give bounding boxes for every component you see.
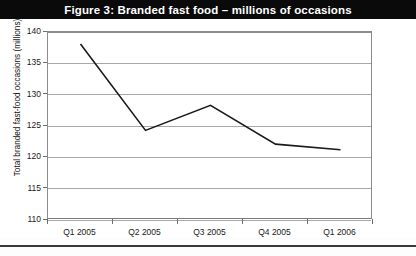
figure-container: Figure 3: Branded fast food – millions o… (0, 0, 416, 256)
y-axis-tick-label: 120 (27, 152, 41, 161)
y-axis-tick-label: 130 (27, 90, 41, 99)
y-axis-tick-label: 110 (27, 215, 41, 224)
x-axis-tick-mark (112, 219, 113, 224)
x-axis-tick-mark (177, 219, 178, 224)
series-line-path (81, 44, 341, 150)
x-axis-tick-mark (372, 219, 373, 224)
line-series-svg (48, 32, 373, 220)
y-axis-tick-labels: 140135130125120115110 (0, 31, 41, 219)
figure-title: Figure 3: Branded fast food – millions o… (64, 4, 352, 16)
footer-divider (0, 245, 416, 247)
y-axis-tick-label: 125 (27, 121, 41, 130)
x-axis-tick-mark (307, 219, 308, 224)
x-axis-tick-label: Q3 2005 (193, 227, 226, 237)
y-axis-tick-label: 135 (27, 58, 41, 67)
x-axis-tick-label: Q1 2006 (323, 227, 356, 237)
x-axis-tick-mark (47, 219, 48, 224)
x-axis-tick-mark (242, 219, 243, 224)
y-axis-tick-label: 115 (27, 184, 41, 193)
figure-header-bar: Figure 3: Branded fast food – millions o… (0, 0, 416, 19)
plot-frame (47, 31, 372, 219)
x-axis-tick-label: Q4 2005 (258, 227, 291, 237)
chart-area: Total branded fast-food occasions (milli… (0, 19, 416, 237)
y-axis-tick-label: 140 (27, 27, 41, 36)
x-axis-tick-label: Q2 2005 (128, 227, 161, 237)
x-axis-tick-label: Q1 2005 (63, 227, 96, 237)
